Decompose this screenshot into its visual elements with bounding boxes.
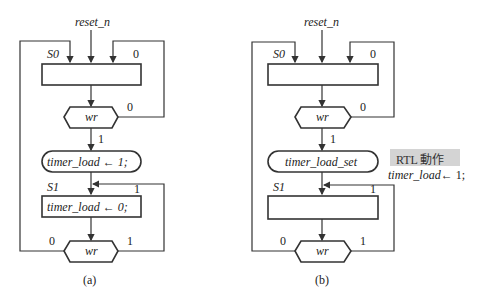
reset-label-b: reset_n [304,15,339,29]
branch-0-bottom-b: 0 [280,234,286,248]
state-s1-label-b: S1 [273,180,285,194]
state-s1-box-b [268,196,378,219]
branch-0-top-a: 0 [127,100,133,114]
decision-wr-bottom-label-b: wr [316,244,329,258]
caption-b: (b) [315,273,329,287]
conditional-output-text-b: timer_load_set [285,155,358,169]
branch-1-bottom-b: 1 [360,234,366,248]
loop-s1-label-b: 1 [370,182,376,196]
loop-s0-label-a: 0 [133,47,139,61]
loop-s1-label-a: 1 [134,182,140,196]
reset-label-a: reset_n [75,15,110,29]
decision-wr-top-label-a: wr [85,110,98,124]
decision-wr-top-label-b: wr [316,110,329,124]
loop-s0-label-b: 0 [370,47,376,61]
branch-1-top-b: 1 [330,132,336,146]
wr0-to-s0-line-b [252,100,295,251]
s1-action-text-a: timer_load ← 0; [47,200,128,214]
diagram-a: reset_n S0 0 wr 0 1 timer_load ← 1; S1 1… [20,15,164,287]
rtl-note-assignment: ← 1; [441,168,465,182]
state-s0-box-b [268,64,378,85]
branch-1-bottom-a: 1 [127,234,133,248]
wr0-to-s0-line-a [20,100,64,251]
caption-a: (a) [83,273,96,287]
rtl-note-title: RTL 動作 [396,150,445,168]
diagram-b: reset_n S0 0 wr 0 1 timer_load_set S1 1 … [252,15,394,287]
rtl-note-signal: timer_load [388,168,441,182]
branch-0-bottom-a: 0 [49,234,55,248]
decision-wr-bottom-label-a: wr [85,244,98,258]
rtl-note-expression: timer_load← 1; [388,168,465,183]
state-s0-label-b: S0 [273,47,285,61]
branch-0-top-b: 0 [360,100,366,114]
state-s1-label-a: S1 [47,180,59,194]
state-s0-box-a [42,64,141,85]
state-s0-label-a: S0 [47,47,59,61]
branch-1-top-a: 1 [98,132,104,146]
conditional-output-text-a: timer_load ← 1; [47,155,128,169]
